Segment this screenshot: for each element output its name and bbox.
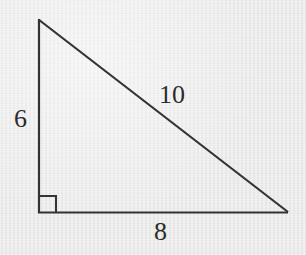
triangle-drawing: [0, 0, 306, 255]
side-label-vertical-leg: 6: [14, 106, 27, 132]
triangle-side-hypotenuse: [39, 20, 289, 213]
right-angle-square-icon: [39, 196, 56, 213]
geometry-figure-canvas: 6 10 8: [0, 0, 306, 255]
side-label-horizontal-leg: 8: [154, 219, 167, 245]
side-label-hypotenuse: 10: [159, 82, 185, 108]
